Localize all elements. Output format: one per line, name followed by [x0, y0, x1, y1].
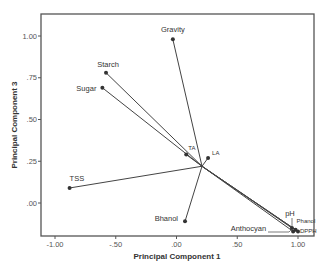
x-tick-label: -.50 — [109, 240, 122, 249]
point-label: Bhanol — [155, 214, 179, 223]
point-label: LA — [212, 150, 219, 156]
y-tick-label: .75 — [27, 73, 37, 82]
loading-point — [68, 186, 72, 190]
loading-point — [171, 37, 175, 41]
anthocyan-leader — [268, 230, 291, 232]
loading-point — [184, 153, 188, 157]
y-tick-label: .50 — [27, 115, 37, 124]
loading-point — [291, 229, 295, 233]
plot-frame — [41, 14, 314, 236]
point-label: Gravity — [161, 25, 185, 34]
point-label: TSS — [70, 174, 85, 183]
x-tick-label: 1.00 — [291, 240, 306, 249]
loading-vector — [185, 166, 202, 221]
point-label: Phanol — [297, 218, 316, 224]
x-tick-label: .50 — [232, 240, 242, 249]
pca-biplot: .00.25.50.751.00 -1.00-.50.00.501.00 Gra… — [0, 0, 328, 268]
x-axis-ticks: -1.00-.50.00.501.00 — [46, 236, 305, 249]
point-label: TA — [188, 145, 195, 151]
x-tick-label: -1.00 — [46, 240, 63, 249]
x-axis-title: Principal Component 1 — [133, 252, 221, 261]
x-tick-label: .00 — [171, 240, 181, 249]
point-label: pH — [285, 209, 295, 218]
point-label: Anthocyan — [231, 224, 266, 233]
y-axis-title: Principal Component 3 — [10, 81, 19, 169]
point-label: Sugar — [76, 84, 97, 93]
y-tick-label: 1.00 — [22, 32, 37, 41]
loading-vector — [202, 166, 293, 231]
loading-point — [104, 71, 108, 75]
loading-point — [206, 156, 210, 160]
y-tick-label: .25 — [27, 157, 37, 166]
y-tick-label: .00 — [27, 199, 37, 208]
point-label: DPPH — [300, 228, 317, 234]
point-label: Starch — [97, 60, 119, 69]
point-labels: GravityStarchSugarTSSTALABhanolpHPhanolD… — [70, 25, 317, 234]
loading-point — [183, 219, 187, 223]
loading-vector — [106, 73, 202, 167]
loading-point — [100, 86, 104, 90]
loading-vector — [70, 166, 202, 188]
y-axis-ticks: .00.25.50.751.00 — [22, 32, 41, 208]
